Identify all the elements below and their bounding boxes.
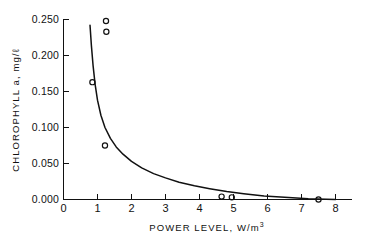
x-tick-label: 3 (162, 202, 168, 214)
y-tick-label: 0.050 (32, 157, 59, 169)
x-tick-label: 8 (332, 202, 338, 214)
y-tick-label: 0.000 (32, 193, 59, 205)
chart-figure: 0.250 0.200 0.150 0.100 0.050 0.000 0 1 … (0, 0, 373, 246)
data-point-marker (102, 143, 107, 148)
x-tick-label: 0 (60, 202, 66, 214)
data-point-marker (219, 194, 224, 199)
y-tick-label: 0.100 (32, 121, 59, 133)
data-points-group (90, 18, 321, 202)
y-axis-title-unit: ℓ (10, 48, 21, 52)
y-tick-label: 0.150 (32, 85, 59, 97)
y-axis-title: CHLOROPHYLL a, mg/ℓ (10, 48, 21, 171)
y-tick-label: 0.200 (32, 49, 59, 61)
x-axis-title-exponent: 3 (260, 221, 265, 228)
x-tick-label: 1 (94, 202, 100, 214)
y-axis-ticks (64, 20, 70, 200)
x-axis-tick-labels: 0 1 2 3 4 5 6 7 8 (60, 202, 338, 214)
y-axis-title-text: CHLOROPHYLL a, mg/ (10, 52, 21, 171)
y-axis-tick-labels: 0.250 0.200 0.150 0.100 0.050 0.000 (32, 13, 59, 205)
x-tick-label: 4 (196, 202, 202, 214)
fitted-curve (90, 25, 335, 199)
data-point-marker (103, 18, 108, 23)
x-tick-label: 5 (230, 202, 236, 214)
y-tick-label: 0.250 (32, 13, 59, 25)
chart-axes (64, 19, 353, 200)
data-point-marker (104, 29, 109, 34)
x-tick-label: 7 (298, 202, 304, 214)
x-tick-label: 2 (128, 202, 134, 214)
chart-canvas: 0.250 0.200 0.150 0.100 0.050 0.000 0 1 … (0, 0, 373, 246)
x-axis-title: POWER LEVEL, W/m3 (149, 221, 265, 233)
x-tick-label: 6 (264, 202, 270, 214)
svg-text:POWER LEVEL, W/m3: POWER LEVEL, W/m3 (149, 221, 265, 233)
x-axis-title-text: POWER LEVEL, W/m (149, 222, 260, 233)
svg-text:CHLOROPHYLL a, mg/ℓ: CHLOROPHYLL a, mg/ℓ (10, 48, 21, 171)
